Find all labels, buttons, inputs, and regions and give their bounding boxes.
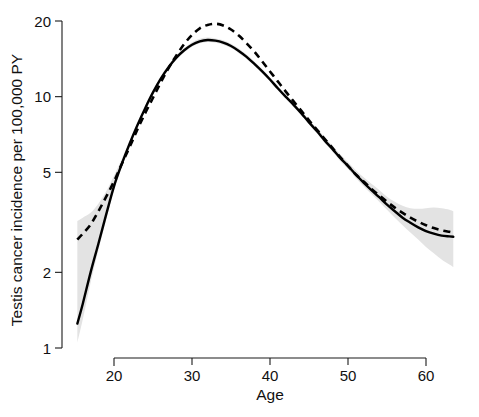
chart-figure: 1251020 2030405060 Age Testis cancer inc… [0, 0, 479, 417]
x-axis-ticks: 2030405060 [106, 358, 435, 384]
y-axis: 1251020 [34, 13, 62, 357]
y-axis-title: Testis cancer incidence per 100,000 PY [8, 54, 25, 326]
y-tick-label: 2 [43, 264, 51, 281]
x-tick-label: 20 [106, 367, 123, 384]
curves-group [77, 24, 453, 324]
x-tick-label: 30 [184, 367, 201, 384]
solid-curve [77, 40, 453, 324]
x-tick-label: 50 [340, 367, 357, 384]
x-tick-label: 40 [262, 367, 279, 384]
confidence-band [77, 37, 453, 342]
y-tick-label: 1 [43, 340, 51, 357]
x-axis: 2030405060 [106, 358, 435, 384]
y-tick-label: 5 [43, 164, 51, 181]
confidence-band-group [77, 37, 453, 342]
y-tick-label: 10 [34, 88, 51, 105]
x-tick-label: 60 [418, 367, 435, 384]
x-axis-title: Age [256, 386, 284, 403]
testis-cancer-incidence-line-chart: 1251020 2030405060 Age Testis cancer inc… [0, 0, 479, 417]
y-axis-ticks: 1251020 [34, 13, 62, 357]
y-tick-label: 20 [34, 13, 51, 30]
